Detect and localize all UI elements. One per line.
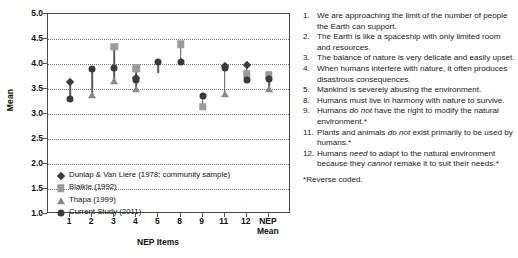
y-tick-mark bbox=[43, 13, 47, 14]
x-tick-mark bbox=[69, 213, 70, 217]
data-point-circle bbox=[89, 66, 96, 73]
list-item: 2.The Earth is like a spaceship with onl… bbox=[303, 32, 515, 53]
list-item: 8.Humans must live in harmony with natur… bbox=[303, 96, 515, 107]
y-tick-label: 3.0 bbox=[17, 109, 43, 118]
list-item: 9.Humans do not have the right to modify… bbox=[303, 106, 515, 127]
list-item-text: Humans need to adapt to the natural envi… bbox=[317, 149, 515, 170]
x-tick-mark bbox=[113, 213, 114, 217]
legend-label: Dunlap & Van Liere (1978; community samp… bbox=[69, 170, 230, 179]
list-item-text: Humans must live in harmony with nature … bbox=[317, 96, 515, 107]
list-item-text: Plants and animals do not exist primaril… bbox=[317, 128, 515, 149]
list-item-text: When humans interfere with nature, it of… bbox=[317, 64, 515, 85]
list-item-number: 9. bbox=[303, 106, 317, 127]
y-tick-label: 3.5 bbox=[17, 84, 43, 93]
legend-label: Thapa (1999) bbox=[69, 195, 116, 204]
list-item: 11.Plants and animals do not exist prima… bbox=[303, 128, 515, 149]
gridline bbox=[48, 89, 289, 90]
y-axis-tick-labels: 5.04.54.03.53.02.52.01.51.0 bbox=[17, 0, 43, 258]
data-point-circle bbox=[155, 58, 162, 65]
nep-item-list: 1.We are approaching the limit of the nu… bbox=[303, 11, 515, 186]
y-tick-label: 1.0 bbox=[17, 209, 43, 218]
y-tick-mark bbox=[43, 88, 47, 89]
list-item: 5.Mankind is severely abusing the enviro… bbox=[303, 85, 515, 96]
list-item-number: 12. bbox=[303, 149, 317, 170]
data-point-circle bbox=[177, 59, 184, 66]
y-tick-mark bbox=[43, 63, 47, 64]
legend-item[interactable]: Blaikie (1992) bbox=[56, 181, 256, 194]
data-point-diamond bbox=[243, 61, 251, 69]
list-item: 12.Humans need to adapt to the natural e… bbox=[303, 149, 515, 170]
data-point-triangle bbox=[265, 85, 273, 92]
y-tick-label: 2.5 bbox=[17, 134, 43, 143]
x-tick-mark bbox=[268, 213, 269, 217]
x-tick-mark bbox=[157, 213, 158, 217]
list-item-text: The balance of nature is very delicate a… bbox=[317, 53, 515, 64]
gridline bbox=[48, 64, 289, 65]
x-tick-label-line: Mean bbox=[248, 226, 288, 236]
chart-panel: Mean 5.04.54.03.53.02.52.01.51.0 Dunlap … bbox=[0, 0, 300, 258]
y-axis-title: Mean bbox=[5, 70, 15, 130]
legend-square-icon bbox=[56, 184, 65, 193]
data-point-circle bbox=[221, 64, 228, 71]
list-item: 4.When humans interfere with nature, it … bbox=[303, 64, 515, 85]
list-item-number: 3. bbox=[303, 53, 317, 64]
data-point-circle bbox=[243, 77, 250, 84]
y-tick-label: 4.5 bbox=[17, 34, 43, 43]
list-item-number: 8. bbox=[303, 96, 317, 107]
legend-label: Blaikie (1992) bbox=[69, 182, 117, 191]
list-item-number: 4. bbox=[303, 64, 317, 85]
data-point-square bbox=[177, 40, 185, 48]
list-item-number: 5. bbox=[303, 85, 317, 96]
list-item-number: 1. bbox=[303, 11, 317, 32]
list-item-text: We are approaching the limit of the numb… bbox=[317, 11, 515, 32]
y-tick-mark bbox=[43, 38, 47, 39]
data-point-circle bbox=[199, 92, 206, 99]
list-item: 1.We are approaching the limit of the nu… bbox=[303, 11, 515, 32]
list-item-text: Humans do not have the right to modify t… bbox=[317, 106, 515, 127]
data-point-circle bbox=[67, 96, 74, 103]
list-item-number: 2. bbox=[303, 32, 317, 53]
data-point-triangle bbox=[88, 91, 96, 98]
y-tick-mark bbox=[43, 188, 47, 189]
gridline bbox=[48, 114, 289, 115]
x-axis-title: NEP Items bbox=[47, 237, 269, 247]
legend-item[interactable]: Thapa (1999) bbox=[56, 193, 256, 206]
data-point-square bbox=[111, 43, 119, 51]
list-item-text: The Earth is like a spaceship with only … bbox=[317, 32, 515, 53]
legend-label: Current Study (2011) bbox=[69, 207, 141, 216]
data-point-triangle bbox=[221, 90, 229, 97]
data-point-square bbox=[133, 64, 141, 72]
y-tick-label: 2.0 bbox=[17, 159, 43, 168]
data-point-circle bbox=[111, 64, 118, 71]
x-tick-mark bbox=[180, 213, 181, 217]
y-tick-mark bbox=[43, 113, 47, 114]
legend-diamond-icon bbox=[56, 171, 65, 180]
legend-item[interactable]: Dunlap & Van Liere (1978; community samp… bbox=[56, 168, 256, 181]
data-point-circle bbox=[265, 76, 272, 83]
x-tick-mark bbox=[224, 213, 225, 217]
y-tick-mark bbox=[43, 138, 47, 139]
y-tick-mark bbox=[43, 213, 47, 214]
x-tick-mark bbox=[246, 213, 247, 217]
figure-container: Mean 5.04.54.03.53.02.52.01.51.0 Dunlap … bbox=[0, 0, 518, 258]
data-point-triangle bbox=[132, 85, 140, 92]
data-point-square bbox=[199, 103, 207, 111]
data-point-diamond bbox=[66, 77, 74, 85]
gridline bbox=[48, 39, 289, 40]
legend-triangle-icon bbox=[56, 196, 65, 205]
y-tick-mark bbox=[43, 163, 47, 164]
y-tick-label: 4.0 bbox=[17, 59, 43, 68]
chart-legend: Dunlap & Van Liere (1978; community samp… bbox=[56, 168, 256, 218]
footnote: *Reverse coded. bbox=[303, 175, 515, 186]
x-tick-label-line: NEP bbox=[248, 216, 288, 226]
list-item-text: Mankind is severely abusing the environm… bbox=[317, 85, 515, 96]
x-tick-mark bbox=[202, 213, 203, 217]
gridline bbox=[48, 139, 289, 140]
x-tick-mark bbox=[135, 213, 136, 217]
y-tick-label: 1.5 bbox=[17, 184, 43, 193]
data-point-circle bbox=[133, 77, 140, 84]
list-item-number: 11. bbox=[303, 128, 317, 149]
x-tick-label: NEPMean bbox=[248, 216, 288, 236]
gridline bbox=[48, 164, 289, 165]
data-point-triangle bbox=[110, 77, 118, 84]
